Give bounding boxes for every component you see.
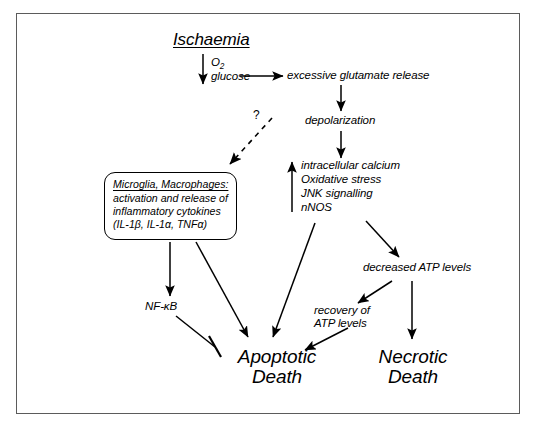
node-cluster-oxidative-stress: Oxidative stress [301, 173, 381, 187]
arrow-cluster-to-apoptotic [273, 223, 315, 337]
arrow-decreased-atp-to-recovery [358, 281, 392, 303]
node-recovery-of-atp-line-1: recovery of [314, 304, 370, 318]
node-cluster-nnos: nNOS [301, 201, 332, 215]
node-excessive-glutamate-release: excessive glutamate release [287, 69, 429, 83]
inhibition-bar-nfkb [209, 336, 221, 357]
necrotic-death-line-2: Death [388, 366, 438, 387]
node-glucose: glucose [211, 70, 250, 84]
node-apoptotic-death: ApoptoticDeath [222, 347, 332, 387]
microglia-box-line-3: (IL-1β, IL-1α, TNFα) [113, 218, 229, 231]
microglia-box-line-1: activation and release of [113, 192, 229, 205]
figure-root: Ischaemia O2 glucose excessive glutamate… [0, 0, 533, 430]
node-cluster-jnk-signalling: JNK signalling [301, 187, 372, 201]
figure-caption [18, 421, 518, 430]
node-necrotic-death: NecroticDeath [363, 347, 463, 387]
node-decreased-atp-levels: decreased ATP levels [363, 261, 471, 275]
node-recovery-of-atp-line-2: ATP levels [314, 317, 367, 331]
microglia-box-line-2: inflammatory cytokines [113, 205, 229, 218]
arrow-microglia-to-apoptotic [196, 242, 248, 337]
arrow-cluster-to-decreased-atp [366, 221, 399, 257]
node-depolarization: depolarization [305, 114, 375, 128]
inhibition-nfkb-to-apoptotic [176, 316, 215, 347]
apoptotic-death-line-1: Apoptotic [238, 346, 316, 367]
node-ischaemia: Ischaemia [173, 30, 250, 50]
node-nf-kappa-b: NF-κB [145, 300, 177, 314]
necrotic-death-line-1: Necrotic [379, 346, 448, 367]
microglia-box-heading: Microglia, Macrophages: [113, 178, 229, 190]
dashed-arrow-to-microglia [230, 118, 272, 164]
node-question-mark: ? [253, 108, 260, 122]
apoptotic-death-line-2: Death [252, 366, 302, 387]
node-cluster-intracellular-calcium: intracellular calcium [301, 159, 400, 173]
node-microglia-macrophages-box: Microglia, Macrophages: activation and r… [104, 172, 237, 240]
